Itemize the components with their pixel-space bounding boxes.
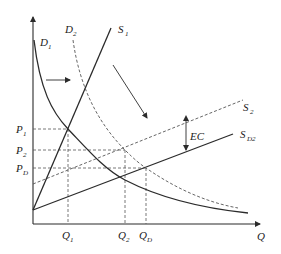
svg-text:P: P [15,123,23,135]
quantity-label-q2: Q 2 [118,229,130,244]
svg-text:Q: Q [62,229,70,241]
svg-text:P: P [15,162,23,174]
s1-curve [33,28,111,210]
sd2-label: S D2 [240,128,256,143]
svg-text:Q: Q [139,229,147,241]
svg-text:1: 1 [23,130,27,138]
ec-label: EC [189,130,205,142]
price-label-p1: P 1 [15,123,27,138]
price-label-p2: P 2 [15,144,27,159]
quantity-label-q1: Q 1 [62,229,74,244]
svg-text:2: 2 [73,30,77,38]
svg-text:1: 1 [48,43,52,51]
quantity-label-qd: Q D [139,229,152,244]
svg-text:S: S [243,101,249,113]
svg-text:D2: D2 [246,135,256,143]
svg-text:Q: Q [118,229,126,241]
s1-label: S 1 [118,23,129,38]
s2-label: S 2 [243,101,254,116]
d2-curve [73,40,238,208]
svg-text:D: D [22,169,28,177]
svg-text:2: 2 [126,236,130,244]
svg-text:S: S [240,128,246,140]
d2-label: D 2 [64,23,77,38]
x-axis-label: Q [257,230,265,242]
svg-text:D: D [146,236,152,244]
diagonal-arrow-icon [113,65,147,118]
quantity-guides [68,129,146,224]
svg-text:P: P [15,144,23,156]
d1-curve [34,40,248,213]
supply-demand-diagram: D 1 D 2 S 1 S 2 S D2 EC P 1 P 2 P D Q 1 … [0,0,281,254]
svg-text:D: D [39,36,48,48]
svg-text:2: 2 [250,108,254,116]
price-label-pd: P D [15,162,28,177]
svg-text:1: 1 [125,30,129,38]
svg-text:S: S [118,23,124,35]
price-guides [33,129,146,168]
svg-text:2: 2 [23,151,27,159]
svg-text:1: 1 [70,236,74,244]
d1-label: D 1 [39,36,52,51]
svg-text:D: D [64,23,73,35]
